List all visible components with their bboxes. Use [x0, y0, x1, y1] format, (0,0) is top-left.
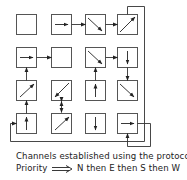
cell-grid [17, 15, 138, 134]
caption-line-1: Channels established using the protocol [16, 151, 187, 161]
priority-label: Priority [16, 163, 47, 173]
mesh-diagram [0, 0, 187, 150]
cell-r0c0 [17, 15, 37, 35]
caption-line-2: Priority N then E then S then W [16, 163, 187, 173]
priority-order: N then E then S then W [77, 163, 180, 173]
cell-r1c1 [52, 48, 72, 68]
double-arrow-icon [51, 165, 73, 173]
